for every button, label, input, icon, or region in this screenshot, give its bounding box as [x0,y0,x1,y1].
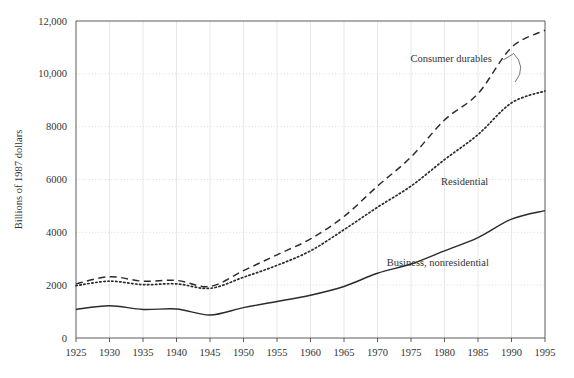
y-axis-title: Billions of 1987 dollars [13,130,24,229]
y-tick-label: 2000 [46,280,67,291]
x-tick-label: 1995 [535,347,556,358]
x-tick-label: 1990 [501,347,522,358]
y-tick-label: 6000 [46,174,67,185]
series-label-residential: Residential [441,176,488,187]
x-tick-label: 1985 [468,347,489,358]
x-tick-label: 1940 [166,347,187,358]
x-tick-label: 1935 [133,347,154,358]
y-tick-label: 10,000 [38,68,67,79]
x-tick-label: 1930 [99,347,120,358]
x-tick-label: 1945 [200,347,221,358]
series-label-business-nonresidential: Business, nonresidential [387,257,489,268]
line-chart: 1925193019351940194519501955196019651970… [0,0,574,378]
x-tick-label: 1980 [434,347,455,358]
series-label-consumer-durables: Consumer durables [411,53,492,64]
chart-container: 1925193019351940194519501955196019651970… [0,0,574,378]
x-tick-label: 1925 [66,347,87,358]
x-axis-tick-labels: 1925193019351940194519501955196019651970… [66,347,556,358]
y-tick-label: 12,000 [38,16,67,27]
y-tick-label: 4000 [46,227,67,238]
x-tick-label: 1950 [233,347,254,358]
y-tick-label: 0 [62,333,67,344]
x-tick-label: 1970 [367,347,388,358]
y-tick-label: 8000 [46,121,67,132]
x-tick-label: 1960 [300,347,321,358]
x-tick-label: 1955 [267,347,288,358]
x-tick-label: 1965 [334,347,355,358]
x-tick-label: 1975 [401,347,422,358]
